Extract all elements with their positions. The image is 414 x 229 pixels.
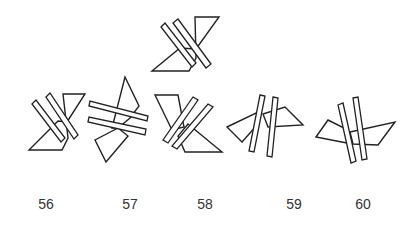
option-label-58: 58 <box>197 196 213 212</box>
option-figure-56[interactable] <box>29 93 85 150</box>
option-label-57: 57 <box>122 196 138 212</box>
option-label-59: 59 <box>286 196 302 212</box>
option-figure-59[interactable] <box>227 95 303 157</box>
option-figure-58[interactable] <box>155 95 222 152</box>
option-figure-60[interactable] <box>316 97 395 163</box>
option-label-56: 56 <box>38 196 54 212</box>
puzzle-canvas <box>0 0 414 229</box>
option-label-60: 60 <box>355 196 371 212</box>
reference-figure <box>152 17 219 71</box>
option-figure-57[interactable] <box>88 77 148 162</box>
